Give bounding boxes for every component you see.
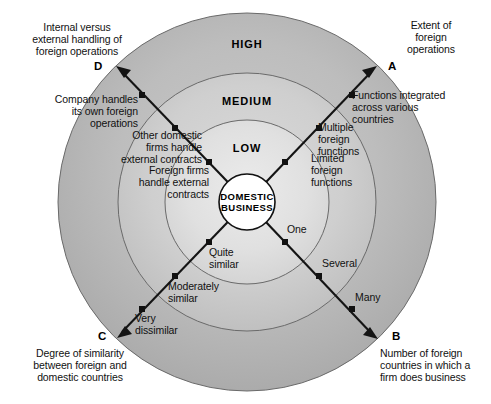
axis-b-tick-1-label: One: [287, 224, 337, 236]
tick-dot-B-3: [349, 306, 355, 312]
axis-c-letter: C: [98, 330, 106, 343]
axis-b-tick-3-label: Many: [355, 292, 405, 304]
axis-d-letter: D: [94, 60, 102, 73]
axis-d-tick-1-label: Foreign firms handle external contracts: [125, 165, 209, 201]
ring-label-low: LOW: [233, 142, 261, 155]
tick-dot-D-3: [139, 92, 145, 98]
tick-dot-C-1: [206, 239, 212, 245]
axis-d-tick-3-label: Company handles its own foreign operatio…: [28, 94, 138, 130]
ring-label-high: HIGH: [231, 38, 262, 51]
axis-d-caption: Internal versus external handling of for…: [12, 22, 142, 58]
tick-dot-C-2: [172, 273, 178, 279]
tick-dot-A-1: [282, 159, 288, 165]
tick-dot-B-1: [282, 239, 288, 245]
axis-a-caption: Extent of foreign operations: [383, 20, 479, 56]
axis-c-tick-3-label: Very dissimilar: [135, 313, 191, 337]
axis-a-letter: A: [388, 60, 396, 73]
tick-dot-B-2: [316, 273, 322, 279]
venn-radial-diagram: HIGH MEDIUM LOW DOMESTIC BUSINESS Extent…: [0, 0, 491, 404]
axis-a-tick-1-label: Limited foreign functions: [311, 153, 383, 189]
axis-a-tick-3-label: Functions integrated across various coun…: [352, 90, 482, 126]
center-label-domestic-business: DOMESTIC BUSINESS: [202, 191, 292, 214]
axis-b-tick-2-label: Several: [322, 258, 380, 270]
axis-b-caption: Number of foreign countries in which a f…: [380, 348, 491, 384]
axis-c-tick-1-label: Quite similar: [209, 247, 265, 271]
axis-a-tick-2-label: Multiple foreign functions: [318, 122, 384, 158]
axis-c-caption: Degree of similarity between foreign and…: [10, 348, 150, 384]
axis-c-tick-2-label: Moderately similar: [168, 281, 244, 305]
axis-b-letter: B: [392, 330, 400, 343]
ring-label-medium: MEDIUM: [222, 95, 272, 108]
axis-d-tick-2-label: Other domestic firms handle external con…: [92, 130, 202, 166]
